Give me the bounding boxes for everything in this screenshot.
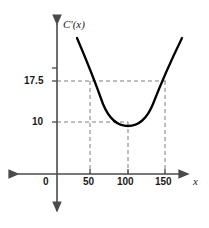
chart-figure: C'(x) x 17.5 10 0 50 100 150 [0, 0, 209, 228]
y-axis-title: C'(x) [63, 19, 85, 30]
x-tick-label-0: 0 [43, 177, 49, 187]
x-tick-label-100: 100 [117, 177, 134, 187]
x-tick-label-150: 150 [155, 177, 172, 187]
y-tick-label-17-5: 17.5 [24, 76, 43, 86]
plot-area [0, 0, 209, 228]
marginal-cost-curve [77, 38, 182, 126]
y-tick-label-10: 10 [32, 117, 43, 127]
guide-lines [57, 81, 166, 174]
x-tick-label-50: 50 [83, 177, 94, 187]
x-axis-title: x [193, 176, 198, 187]
